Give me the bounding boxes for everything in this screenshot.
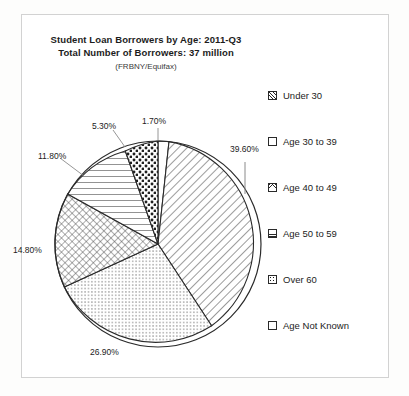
chart-legend: Under 30 Age 30 to 39 Age 40 to 49 Age 5… [268, 72, 398, 348]
legend-item-age-40-49[interactable]: Age 40 to 49 [268, 164, 398, 210]
legend-swatch-horizontal-lines-icon [268, 229, 277, 238]
value-label-age-40-49: 14.80% [13, 245, 42, 255]
legend-item-over-60[interactable]: Over 60 [268, 256, 398, 302]
value-label-under-30: 39.60% [230, 144, 259, 154]
legend-label-age-not-known: Age Not Known [283, 320, 349, 331]
chart-title-block: Student Loan Borrowers by Age: 2011-Q3 T… [21, 34, 271, 72]
legend-label-under-30: Under 30 [283, 90, 322, 101]
legend-swatch-blank-icon [268, 321, 277, 330]
legend-label-age-40-49: Age 40 to 49 [283, 182, 337, 193]
chart-subtitle: Total Number of Borrowers: 37 million [21, 47, 271, 60]
legend-item-under-30[interactable]: Under 30 [268, 72, 398, 118]
value-label-age-30-39: 26.90% [90, 347, 119, 357]
chart-source: (FRBNY/Equifax) [21, 62, 271, 73]
value-label-age-50-59: 11.80% [38, 151, 66, 161]
legend-swatch-coarse-dot-icon [268, 275, 277, 284]
value-label-age-not-known: 1.70% [142, 116, 166, 126]
legend-item-age-50-59[interactable]: Age 50 to 59 [268, 210, 398, 256]
legend-swatch-fine-dot-icon [268, 137, 277, 146]
legend-label-age-30-39: Age 30 to 39 [283, 136, 337, 147]
value-label-over-60: 5.30% [92, 121, 116, 131]
legend-swatch-cross-hatch-icon [268, 183, 277, 192]
legend-swatch-diagonal-hatch-icon [268, 91, 277, 100]
legend-item-age-not-known[interactable]: Age Not Known [268, 302, 398, 348]
legend-label-over-60: Over 60 [283, 274, 317, 285]
leader-line-over-60 [113, 130, 125, 147]
legend-item-age-30-39[interactable]: Age 30 to 39 [268, 118, 398, 164]
legend-label-age-50-59: Age 50 to 59 [283, 228, 337, 239]
pie-chart-area: 39.60% 26.90% 14.80% 11.80% 5.30% 1.70% [12, 110, 274, 365]
chart-title: Student Loan Borrowers by Age: 2011-Q3 [21, 34, 271, 47]
